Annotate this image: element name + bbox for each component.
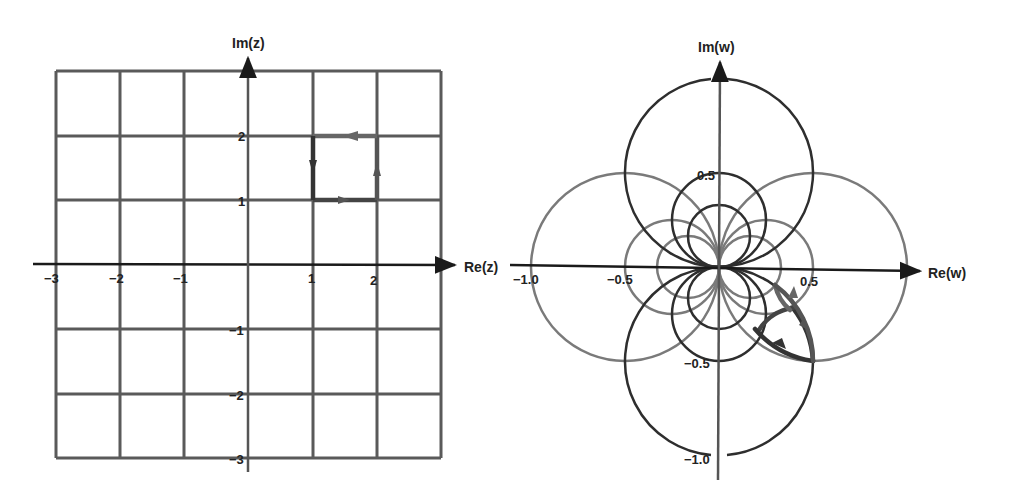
tick-label: 2	[238, 129, 245, 144]
tick-label: −3	[44, 271, 59, 286]
tick-label: −1	[173, 271, 188, 286]
tick-label: −3	[229, 452, 244, 467]
z-plane-labels: Im(z) Re(z) −3 −2 −1 1 2 2 1 −1 −2 −3	[44, 35, 498, 467]
tick-label: 2	[370, 273, 377, 288]
tick-label: −2	[109, 271, 124, 286]
re-w-label: Re(w)	[928, 265, 966, 281]
w-plane-labels: Im(w) Re(w) −1.0 −0.5 0.5 0.5 −0.5 −1.0	[513, 39, 966, 467]
tick-label: −0.5	[684, 356, 710, 371]
tick-label: −0.5	[607, 272, 633, 287]
z-plane-axes	[33, 58, 455, 472]
im-z-label: Im(z)	[232, 35, 265, 51]
tick-label: −1	[229, 323, 244, 338]
tick-label: −1.0	[684, 452, 710, 467]
tick-label: 0.5	[800, 274, 818, 289]
im-w-label: Im(w)	[698, 39, 735, 55]
tick-label: 1	[308, 271, 315, 286]
re-z-label: Re(z)	[464, 259, 498, 275]
tick-label: 0.5	[697, 168, 715, 183]
w-plane-axes	[510, 62, 920, 480]
tick-label: 1	[238, 194, 245, 209]
figure: Im(z) Re(z) −3 −2 −1 1 2 2 1 −1 −2 −3	[0, 0, 1011, 499]
tick-label: −1.0	[513, 272, 539, 287]
z-plane-square	[309, 131, 381, 204]
tick-label: −2	[229, 388, 244, 403]
